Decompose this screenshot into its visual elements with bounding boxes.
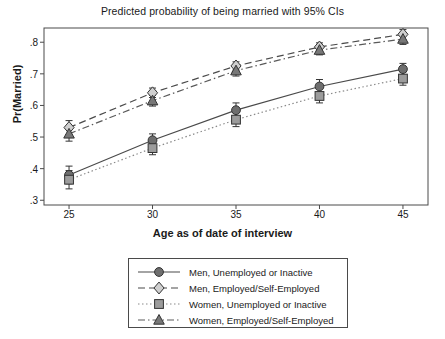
legend-item: Men, Employed/Self-Employed (129, 280, 347, 296)
legend-key-square-icon (137, 296, 181, 312)
data-point-marker (232, 115, 241, 124)
series-line (69, 79, 403, 180)
data-point-marker (399, 65, 408, 74)
data-point-marker (399, 74, 408, 83)
legend: Men, Unemployed or InactiveMen, Employed… (128, 258, 348, 328)
legend-key-triangle-icon (137, 312, 181, 328)
legend-item: Women, Unemployed or Inactive (129, 296, 347, 312)
data-point-marker (232, 106, 241, 115)
chart-container: Predicted probability of being married w… (0, 0, 445, 339)
data-point-marker (65, 175, 74, 184)
legend-item-label: Women, Unemployed or Inactive (181, 299, 327, 310)
legend-key-diamond-icon (137, 280, 181, 296)
data-point-marker (147, 95, 158, 105)
legend-key-circle-icon (137, 264, 181, 280)
legend-item: Women, Employed/Self-Employed (129, 312, 347, 328)
data-point-marker (148, 144, 157, 153)
data-point-marker (315, 92, 324, 101)
legend-item-label: Men, Employed/Self-Employed (181, 283, 319, 294)
legend-item-label: Women, Employed/Self-Employed (181, 315, 334, 326)
data-point-marker (315, 82, 324, 91)
legend-item-label: Men, Unemployed or Inactive (181, 267, 313, 278)
legend-item: Men, Unemployed or Inactive (129, 264, 347, 280)
